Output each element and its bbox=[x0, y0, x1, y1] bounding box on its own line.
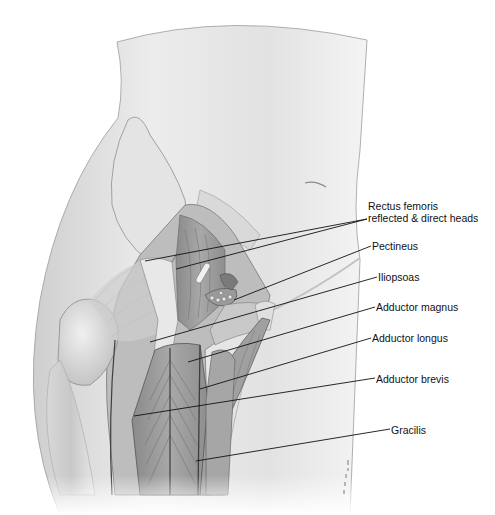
label-iliopsoas: Iliopsoas bbox=[378, 271, 419, 283]
anatomical-illustration bbox=[0, 0, 495, 515]
label-rectus-femoris-line1: Rectus femoris bbox=[368, 200, 478, 212]
label-adductor-longus: Adductor longus bbox=[372, 332, 448, 344]
label-adductor-brevis: Adductor brevis bbox=[376, 373, 449, 385]
label-adductor-magnus: Adductor magnus bbox=[376, 301, 458, 313]
label-rectus-femoris: Rectus femoris reflected & direct heads bbox=[368, 200, 478, 224]
label-rectus-femoris-line2: reflected & direct heads bbox=[368, 212, 478, 224]
label-pectineus: Pectineus bbox=[372, 240, 418, 252]
label-gracilis: Gracilis bbox=[391, 424, 426, 436]
bottom-fade bbox=[0, 475, 495, 515]
